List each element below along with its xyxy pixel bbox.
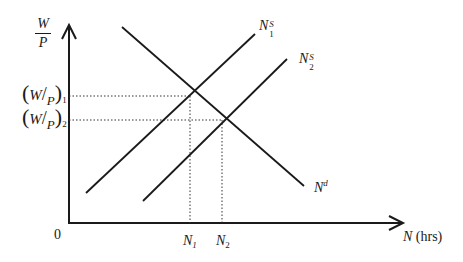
y-tick-wp1: (W/P)1: [22, 82, 67, 105]
y-axis-label-num: W: [37, 16, 49, 31]
origin-label: 0: [54, 228, 61, 242]
supply-curve-1: [86, 34, 255, 193]
x-axis-label: N (hrs): [403, 230, 442, 244]
y-axis-label: W P: [35, 17, 51, 50]
x-tick-n1: N1: [183, 234, 197, 250]
demand-curve-label: Nd: [314, 179, 328, 195]
fraction-bar: [35, 33, 51, 34]
y-axis-label-den: P: [39, 35, 48, 50]
diagram-canvas: [0, 0, 463, 262]
supply-curve-2: [143, 59, 287, 201]
x-tick-n2: N2: [216, 234, 230, 250]
supply-curve-1-label: NS1: [259, 19, 276, 33]
supply-curve-2-label: NS2: [299, 52, 316, 66]
demand-curve: [122, 27, 304, 186]
y-tick-wp2: (W/P)2: [22, 106, 67, 129]
